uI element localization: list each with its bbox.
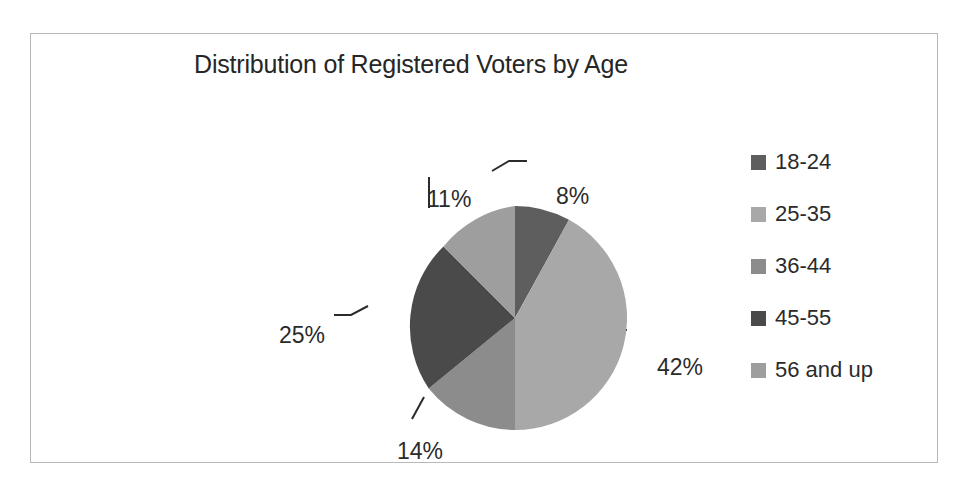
pie-label-45-55: 25% bbox=[279, 322, 325, 349]
legend-item-18-24: 18-24 bbox=[751, 136, 926, 188]
legend-item-36-44: 36-44 bbox=[751, 240, 926, 292]
legend-label: 25-35 bbox=[775, 201, 831, 227]
leader-line-18-24 bbox=[492, 161, 527, 171]
pie-label-36-44: 14% bbox=[397, 438, 443, 465]
legend-item-45-55: 45-55 bbox=[751, 292, 926, 344]
legend-label: 56 and up bbox=[775, 357, 873, 383]
legend-label: 18-24 bbox=[775, 149, 831, 175]
legend-item-56-and-up: 56 and up bbox=[751, 344, 926, 396]
legend-item-25-35: 25-35 bbox=[751, 188, 926, 240]
pie-label-56-and-up: 11% bbox=[427, 186, 471, 213]
legend-swatch-icon bbox=[751, 311, 766, 326]
chart-title: Distribution of Registered Voters by Age bbox=[31, 50, 791, 79]
legend-label: 45-55 bbox=[775, 305, 831, 331]
legend-swatch-icon bbox=[751, 259, 766, 274]
chart-frame: Distribution of Registered Voters by Age… bbox=[30, 33, 938, 463]
pie-chart bbox=[403, 206, 627, 430]
chart-legend: 18-24 25-35 36-44 45-55 56 and up bbox=[751, 136, 926, 396]
legend-swatch-icon bbox=[751, 363, 766, 378]
leader-line-45-55 bbox=[334, 306, 368, 315]
pie-label-25-35: 42% bbox=[657, 354, 703, 381]
pie-label-18-24: 8% bbox=[556, 183, 589, 210]
legend-swatch-icon bbox=[751, 207, 766, 222]
legend-label: 36-44 bbox=[775, 253, 831, 279]
legend-swatch-icon bbox=[751, 155, 766, 170]
